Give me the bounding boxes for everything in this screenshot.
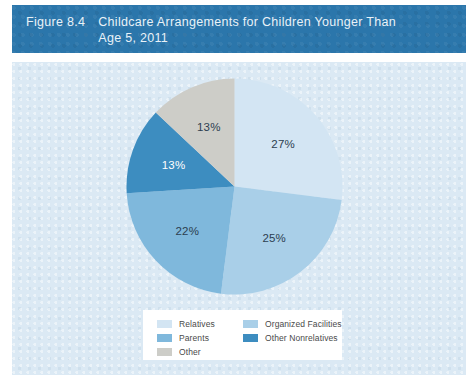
legend-box: RelativesOrganized FacilitiesParentsOthe…: [143, 310, 342, 360]
legend-swatch-icon: [243, 320, 258, 328]
pie-chart-wrapper: 27%25%22%13%13%: [126, 78, 343, 295]
legend-label: Relatives: [179, 319, 215, 329]
chart-panel: 27%25%22%13%13% RelativesOrganized Facil…: [12, 62, 466, 375]
pie-slices: [127, 79, 343, 295]
legend-swatch-icon: [243, 334, 258, 342]
legend-item-organized-facilities[interactable]: Organized Facilities: [243, 317, 356, 330]
legend-swatch-icon: [157, 348, 172, 356]
legend-item-other-nonrelatives[interactable]: Other Nonrelatives: [243, 331, 356, 344]
figure-number: Figure 8.4: [26, 14, 85, 30]
legend-label: Parents: [179, 333, 209, 343]
legend-swatch-icon: [157, 334, 172, 342]
pie-slice-value-relatives: 27%: [271, 138, 295, 150]
pie-slice-value-other-nonrelatives: 13%: [162, 159, 186, 171]
pie-slice-parents[interactable]: [127, 187, 235, 294]
legend-label: Other: [179, 347, 201, 357]
legend-label: Other Nonrelatives: [265, 333, 338, 343]
pie-slice-value-parents: 22%: [175, 225, 199, 237]
pie-chart: 27%25%22%13%13%: [126, 78, 343, 295]
pie-slice-value-other: 13%: [197, 121, 221, 133]
legend-grid: RelativesOrganized FacilitiesParentsOthe…: [143, 317, 342, 358]
legend-item-other[interactable]: Other: [157, 345, 243, 358]
legend-item-parents[interactable]: Parents: [157, 331, 243, 344]
legend-label: Organized Facilities: [265, 319, 342, 329]
legend-item-relatives[interactable]: Relatives: [157, 317, 243, 330]
figure-title: Childcare Arrangements for Children Youn…: [98, 14, 408, 46]
figure-title-bar: Figure 8.4 Childcare Arrangements for Ch…: [12, 5, 466, 53]
legend-swatch-icon: [157, 320, 172, 328]
pie-slice-value-organized-facilities: 25%: [262, 232, 286, 244]
title-row: Figure 8.4 Childcare Arrangements for Ch…: [26, 14, 452, 46]
legend-spacer: [243, 345, 356, 358]
figure-container: Figure 8.4 Childcare Arrangements for Ch…: [0, 0, 476, 388]
